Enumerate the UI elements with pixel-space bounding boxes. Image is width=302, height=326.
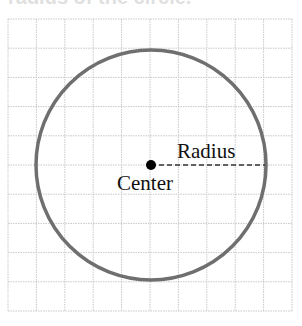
center-label: Center bbox=[117, 171, 173, 195]
center-point bbox=[146, 160, 156, 170]
radius-label: Radius bbox=[177, 139, 235, 163]
circle-diagram: Radius Center bbox=[0, 0, 302, 326]
